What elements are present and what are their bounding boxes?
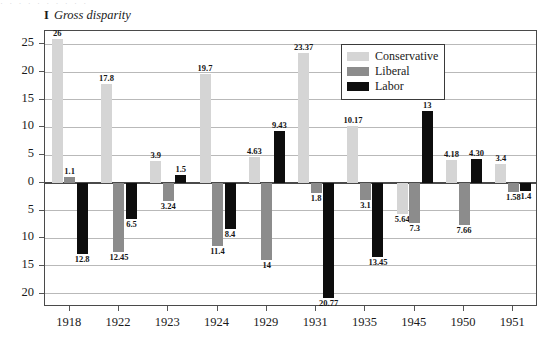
bar-value-label: 26 xyxy=(42,29,72,38)
bar-liberal-1923 xyxy=(163,183,174,201)
y-axis-label: 15 xyxy=(0,91,34,106)
x-axis-tick xyxy=(266,306,267,311)
x-axis-label-1924: 1924 xyxy=(192,315,242,330)
gridline xyxy=(45,99,536,100)
legend-item-conservative: Conservative xyxy=(347,49,438,64)
bar-liberal-1929 xyxy=(261,183,272,261)
gridline xyxy=(45,265,536,266)
bar-value-label: 3.24 xyxy=(153,202,183,211)
bar-value-label: 3.4 xyxy=(486,154,516,163)
bar-value-label: 7.66 xyxy=(449,226,479,235)
legend-label-liberal: Liberal xyxy=(375,65,410,78)
y-axis-label: 10 xyxy=(0,229,34,244)
bar-value-label: 7.3 xyxy=(400,224,430,233)
legend-item-labor: Labor xyxy=(347,79,438,94)
x-axis-label-1918: 1918 xyxy=(44,315,94,330)
bar-labor-1918 xyxy=(77,183,88,254)
bar-conservative-1951 xyxy=(495,164,506,183)
y-axis-tick xyxy=(39,154,44,155)
x-axis-label-1950: 1950 xyxy=(438,315,488,330)
legend-swatch-liberal xyxy=(347,67,369,76)
chart-plot-area: 261.112.817.812.456.53.93.241.519.711.48… xyxy=(44,30,537,306)
bar-value-label: 9.43 xyxy=(264,121,294,130)
bar-labor-1951 xyxy=(520,183,531,191)
legend-swatch-conservative xyxy=(347,52,369,61)
figure-title: Gross disparity xyxy=(54,8,131,22)
y-axis-tick xyxy=(39,210,44,211)
bar-liberal-1935 xyxy=(360,183,371,200)
bar-value-label: 1.4 xyxy=(511,192,541,201)
x-axis-tick xyxy=(463,306,464,311)
y-axis-label: 15 xyxy=(0,257,34,272)
bar-value-label: 4.63 xyxy=(239,147,269,156)
bar-conservative-1918 xyxy=(52,39,63,183)
y-axis-label: 5 xyxy=(0,202,34,217)
bar-labor-1945 xyxy=(422,111,433,183)
y-axis-label: 20 xyxy=(0,63,34,78)
bar-liberal-1945 xyxy=(409,183,420,223)
legend-label-labor: Labor xyxy=(375,80,404,93)
bar-value-label: 8.4 xyxy=(215,230,245,239)
bar-value-label: 13.45 xyxy=(363,258,393,267)
gridline xyxy=(45,293,536,294)
bar-conservative-1945 xyxy=(397,183,408,214)
legend-item-liberal: Liberal xyxy=(347,64,438,79)
bar-value-label: 1.5 xyxy=(166,165,196,174)
bar-value-label: 10.17 xyxy=(338,116,368,125)
y-axis-tick xyxy=(39,43,44,44)
y-axis-tick xyxy=(39,265,44,266)
figure-number: I xyxy=(44,8,49,22)
y-axis-tick xyxy=(39,126,44,127)
bar-labor-1922 xyxy=(126,183,137,219)
x-axis-tick xyxy=(118,306,119,311)
x-axis-label-1945: 1945 xyxy=(389,315,439,330)
bar-liberal-1918 xyxy=(64,177,75,183)
bar-labor-1923 xyxy=(175,175,186,183)
x-axis-label-1931: 1931 xyxy=(290,315,340,330)
figure-caption: IGross disparity xyxy=(44,8,131,22)
x-axis-tick xyxy=(217,306,218,311)
legend-label-conservative: Conservative xyxy=(375,50,438,63)
legend-swatch-labor xyxy=(347,82,369,91)
bar-value-label: 6.5 xyxy=(116,220,146,229)
bar-labor-1924 xyxy=(225,183,236,230)
bar-conservative-1922 xyxy=(101,84,112,183)
y-axis-tick xyxy=(39,182,44,183)
x-axis-label-1951: 1951 xyxy=(487,315,537,330)
bar-conservative-1923 xyxy=(150,161,161,183)
x-axis-label-1922: 1922 xyxy=(93,315,143,330)
x-axis-tick xyxy=(69,306,70,311)
bar-liberal-1931 xyxy=(311,183,322,193)
y-axis-tick xyxy=(39,237,44,238)
x-axis-label-1935: 1935 xyxy=(339,315,389,330)
bar-conservative-1931 xyxy=(298,53,309,183)
bar-value-label: 12.8 xyxy=(67,255,97,264)
y-axis-label: 5 xyxy=(0,146,34,161)
y-axis-tick xyxy=(39,71,44,72)
y-axis-tick xyxy=(39,293,44,294)
y-axis-label: 20 xyxy=(0,285,34,300)
bar-value-label: 14 xyxy=(252,261,282,270)
x-axis-tick xyxy=(414,306,415,311)
bar-liberal-1951 xyxy=(508,183,519,192)
y-axis-tick xyxy=(39,99,44,100)
bar-value-label: 19.7 xyxy=(190,64,220,73)
bar-labor-1935 xyxy=(372,183,383,258)
x-axis-tick xyxy=(315,306,316,311)
scan-artifact-sliver: · · · · · · · · · · xyxy=(0,0,547,7)
x-axis-tick xyxy=(512,306,513,311)
bar-labor-1950 xyxy=(471,159,482,183)
bar-labor-1929 xyxy=(274,131,285,183)
bar-value-label: 3.9 xyxy=(141,151,171,160)
bar-liberal-1922 xyxy=(113,183,124,252)
bar-value-label: 1.1 xyxy=(55,167,85,176)
bar-value-label: 12.45 xyxy=(104,253,134,262)
x-axis-tick xyxy=(364,306,365,311)
bar-conservative-1929 xyxy=(249,157,260,183)
bar-value-label: 13 xyxy=(412,101,442,110)
bar-value-label: 23.37 xyxy=(289,43,319,52)
bar-liberal-1950 xyxy=(459,183,470,225)
bar-value-label: 20.77 xyxy=(314,299,344,308)
x-axis-label-1923: 1923 xyxy=(142,315,192,330)
bar-conservative-1935 xyxy=(347,126,358,182)
